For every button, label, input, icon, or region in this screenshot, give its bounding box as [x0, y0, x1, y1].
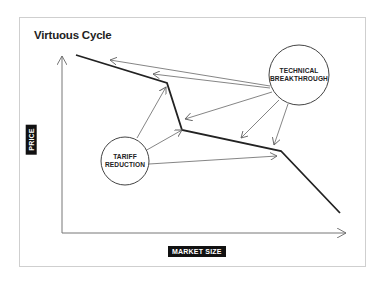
diagram-canvas: [0, 0, 386, 284]
tariff-line2: REDUCTION: [98, 161, 152, 169]
y-axis-label: PRICE: [26, 124, 37, 154]
tariff-line1: TARIFF: [98, 153, 152, 161]
x-axis-label: MARKET SIZE: [168, 246, 226, 257]
technical-line2: BREAKTHROUGH: [264, 75, 334, 83]
tariff-reduction-label: TARIFF REDUCTION: [98, 153, 152, 169]
technical-line1: TECHNICAL: [264, 67, 334, 75]
tariff-arrows: [137, 87, 277, 164]
technical-breakthrough-label: TECHNICAL BREAKTHROUGH: [264, 67, 334, 83]
